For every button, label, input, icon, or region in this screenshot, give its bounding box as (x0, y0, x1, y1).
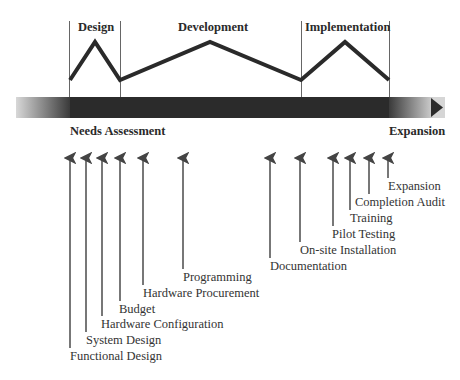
milestone-expansion: Expansion (388, 179, 441, 193)
timeline-bar (16, 97, 445, 118)
milestone-hardware-procurement: Hardware Procurement (143, 286, 259, 300)
milestone-pilot-testing: Pilot Testing (332, 227, 395, 241)
milestone-training: Training (350, 211, 393, 225)
milestone-functional-design: Functional Design (70, 349, 162, 363)
phase-label-design: Design (78, 20, 114, 34)
milestone-hardware-configuration: Hardware Configuration (101, 317, 224, 331)
bar-end-label: Expansion (389, 124, 445, 138)
activity-line (70, 42, 389, 80)
phase-label-development: Development (178, 20, 248, 34)
bar-start-label: Needs Assessment (70, 124, 165, 138)
milestone-completion-audit: Completion Audit (355, 195, 445, 209)
phase-label-implementation: Implementation (305, 20, 390, 34)
milestone-programming: Programming (183, 270, 252, 284)
milestone-budget: Budget (119, 302, 155, 316)
milestone-system-design: System Design (86, 333, 161, 347)
milestone-on-site-installation: On-site Installation (300, 243, 396, 257)
milestone-documentation: Documentation (270, 259, 347, 273)
